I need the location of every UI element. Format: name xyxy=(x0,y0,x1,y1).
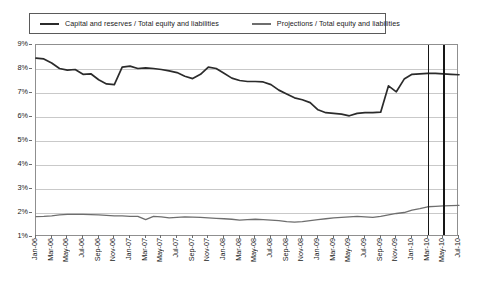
x-tick-mark-Jan-09 xyxy=(317,235,318,238)
x-tick-label-May-06: May-06 xyxy=(62,238,70,262)
x-tick-label-May-07: May-07 xyxy=(156,238,164,262)
series-layer xyxy=(36,45,459,237)
x-tick-mark-Mar-08 xyxy=(239,235,240,238)
x-tick-label-Sep-06: Sep-06 xyxy=(94,238,102,261)
x-tick-mark-Sep-06 xyxy=(98,235,99,238)
x-tick-mark-Jan-10 xyxy=(411,235,412,238)
x-tick-label-Mar-06: Mar-06 xyxy=(47,238,55,261)
y-tick-label-3%: 3% xyxy=(17,184,28,192)
x-tick-mark-May-07 xyxy=(160,235,161,238)
x-tick-label-Jan-07: Jan-07 xyxy=(125,238,133,260)
x-tick-mark-Jul-06 xyxy=(82,235,83,238)
legend-swatch-capital-and-reserves xyxy=(40,23,59,25)
x-tick-label-Sep-09: Sep-09 xyxy=(376,238,384,261)
x-tick-label-Mar-07: Mar-07 xyxy=(141,238,149,261)
x-tick-label-Jul-07: Jul-07 xyxy=(172,238,180,258)
legend-entry-capital-and-reserves: Capital and reserves / Total equity and … xyxy=(40,19,219,28)
y-tick-label-5%: 5% xyxy=(17,136,28,144)
x-tick-mark-Mar-07 xyxy=(145,235,146,238)
x-tick-label-Jan-06: Jan-06 xyxy=(31,238,39,260)
legend-label-capital-and-reserves: Capital and reserves / Total equity and … xyxy=(65,19,219,28)
y-tick-mark-2% xyxy=(29,212,32,213)
y-tick-mark-7% xyxy=(29,92,32,93)
x-tick-label-Sep-07: Sep-07 xyxy=(188,238,196,261)
x-tick-label-Sep-08: Sep-08 xyxy=(282,238,290,261)
x-tick-mark-Nov-06 xyxy=(113,235,114,238)
x-tick-mark-Mar-10 xyxy=(427,235,428,238)
x-tick-label-Jul-10: Jul-10 xyxy=(454,238,462,258)
x-tick-label-Nov-08: Nov-08 xyxy=(297,238,305,261)
y-tick-label-6%: 6% xyxy=(17,112,28,120)
x-tick-label-May-09: May-09 xyxy=(344,238,352,262)
x-tick-label-Nov-09: Nov-09 xyxy=(391,238,399,261)
x-tick-label-Mar-10: Mar-10 xyxy=(423,238,431,261)
y-tick-label-2%: 2% xyxy=(17,208,28,216)
x-tick-label-May-08: May-08 xyxy=(250,238,258,262)
x-tick-mark-Sep-07 xyxy=(192,235,193,238)
plot-area xyxy=(35,44,458,236)
x-tick-mark-Jan-08 xyxy=(223,235,224,238)
reference-line-1 xyxy=(428,45,430,235)
x-tick-mark-Nov-09 xyxy=(395,235,396,238)
x-tick-mark-Jul-09 xyxy=(364,235,365,238)
series-line-capital-and-reserves xyxy=(36,58,459,116)
legend-swatch-projections xyxy=(252,23,271,25)
x-tick-mark-Nov-07 xyxy=(207,235,208,238)
y-tick-mark-8% xyxy=(29,68,32,69)
x-tick-label-Jul-09: Jul-09 xyxy=(360,238,368,258)
x-tick-mark-Mar-06 xyxy=(51,235,52,238)
x-tick-label-May-10: May-10 xyxy=(438,238,446,262)
y-tick-label-4%: 4% xyxy=(17,160,28,168)
y-tick-label-1%: 1% xyxy=(17,232,28,240)
x-tick-label-Mar-08: Mar-08 xyxy=(235,238,243,261)
legend-label-projections: Projections / Total equity and liabiliti… xyxy=(277,19,400,28)
x-tick-mark-Sep-09 xyxy=(380,235,381,238)
y-tick-mark-9% xyxy=(29,44,32,45)
x-tick-label-Jan-10: Jan-10 xyxy=(407,238,415,260)
x-tick-label-Nov-07: Nov-07 xyxy=(203,238,211,261)
y-tick-mark-1% xyxy=(29,236,32,237)
y-tick-mark-4% xyxy=(29,164,32,165)
x-tick-mark-Jan-06 xyxy=(35,235,36,238)
x-tick-mark-Nov-08 xyxy=(301,235,302,238)
x-tick-label-Jul-08: Jul-08 xyxy=(266,238,274,258)
x-tick-mark-May-09 xyxy=(348,235,349,238)
legend-entry-projections: Projections / Total equity and liabiliti… xyxy=(252,19,400,28)
y-tick-label-7%: 7% xyxy=(17,88,28,96)
chart-figure: Capital and reserves / Total equity and … xyxy=(0,0,477,284)
x-tick-mark-Jul-10 xyxy=(458,235,459,238)
x-tick-label-Mar-09: Mar-09 xyxy=(329,238,337,261)
x-tick-mark-May-10 xyxy=(442,235,443,238)
y-tick-label-8%: 8% xyxy=(17,64,28,72)
x-tick-mark-Mar-09 xyxy=(333,235,334,238)
reference-line-2 xyxy=(443,45,445,235)
x-tick-mark-Jul-08 xyxy=(270,235,271,238)
x-tick-mark-May-06 xyxy=(66,235,67,238)
x-tick-mark-Jul-07 xyxy=(176,235,177,238)
y-tick-mark-3% xyxy=(29,188,32,189)
y-axis: 9%8%7%6%5%4%3%2%1% xyxy=(0,44,33,236)
chart-legend: Capital and reserves / Total equity and … xyxy=(29,13,386,34)
x-tick-label-Jan-09: Jan-09 xyxy=(313,238,321,260)
x-tick-label-Nov-06: Nov-06 xyxy=(109,238,117,261)
x-tick-mark-Jan-07 xyxy=(129,235,130,238)
y-tick-label-9%: 9% xyxy=(17,40,28,48)
x-axis: Jan-06Mar-06May-06Jul-06Sep-06Nov-06Jan-… xyxy=(35,238,458,284)
y-tick-mark-6% xyxy=(29,116,32,117)
x-tick-mark-Sep-08 xyxy=(286,235,287,238)
x-tick-label-Jan-08: Jan-08 xyxy=(219,238,227,260)
series-line-projections xyxy=(36,205,459,222)
x-tick-mark-May-08 xyxy=(254,235,255,238)
x-tick-label-Jul-06: Jul-06 xyxy=(78,238,86,258)
y-tick-mark-5% xyxy=(29,140,32,141)
